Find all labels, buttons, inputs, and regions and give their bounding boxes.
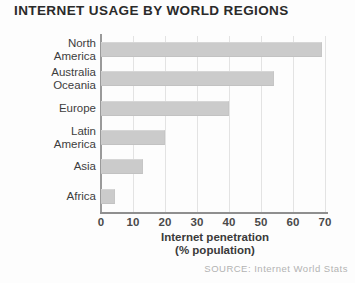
tick-label: 60 xyxy=(278,216,308,228)
bar xyxy=(101,101,229,116)
tick-label: 20 xyxy=(150,216,180,228)
x-axis-tick-labels: 010203040506070 xyxy=(0,216,355,232)
tick-label: 10 xyxy=(118,216,148,228)
x-axis-title: Internet penetration (% population) xyxy=(101,231,329,257)
gridline xyxy=(325,36,326,212)
bar xyxy=(101,130,165,145)
category-label: North America xyxy=(4,37,96,62)
bar xyxy=(101,189,115,204)
bar-row xyxy=(101,65,325,94)
tick-label: 40 xyxy=(214,216,244,228)
category-label: Africa xyxy=(4,190,96,203)
bar-row xyxy=(101,36,325,65)
category-axis-labels: North AmericaAustralia OceaniaEuropeLati… xyxy=(0,36,96,212)
plot-wrapper: North AmericaAustralia OceaniaEuropeLati… xyxy=(0,34,355,216)
page-title: INTERNET USAGE BY WORLD REGIONS xyxy=(14,3,314,18)
category-label: Australia Oceania xyxy=(4,66,96,91)
x-axis-line xyxy=(100,212,328,214)
bar xyxy=(101,42,322,57)
tick-label: 50 xyxy=(246,216,276,228)
bar xyxy=(101,159,143,174)
bar-row xyxy=(101,183,325,212)
tick-label: 30 xyxy=(182,216,212,228)
category-label: Latin America xyxy=(4,125,96,150)
tick-label: 0 xyxy=(86,216,116,228)
bar-row xyxy=(101,153,325,182)
tick-label: 70 xyxy=(310,216,340,228)
bar xyxy=(101,71,274,86)
category-label: Asia xyxy=(4,160,96,173)
bar-row xyxy=(101,124,325,153)
chart-image: INTERNET USAGE BY WORLD REGIONS North Am… xyxy=(0,0,355,283)
source-note: SOURCE: Internet World Stats xyxy=(0,263,348,274)
category-label: Europe xyxy=(4,102,96,115)
bar-row xyxy=(101,95,325,124)
plot-area xyxy=(101,36,325,212)
